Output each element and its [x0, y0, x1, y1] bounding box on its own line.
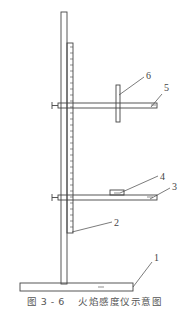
leader-line-5	[151, 94, 162, 107]
part-label-1: 1	[154, 252, 159, 263]
leader-line-1	[133, 262, 152, 287]
part-label-5: 5	[164, 82, 169, 93]
part-label-2: 2	[114, 217, 119, 228]
part-label-6: 6	[146, 70, 151, 81]
caption-title: 火焰感度仪示意图	[78, 296, 162, 307]
flame-sensitivity-apparatus-diagram: 123456	[0, 0, 189, 314]
part-labels: 123456	[114, 70, 177, 263]
figure-caption: 图 3 - 6 火焰感度仪示意图	[0, 294, 189, 308]
caption-number: 图 3 - 6	[27, 296, 65, 307]
part-label-3: 3	[172, 181, 177, 192]
leader-line-2	[72, 222, 112, 232]
leader-line-3	[150, 188, 170, 199]
leader-line-4	[120, 176, 158, 193]
igniter-holder	[116, 85, 120, 122]
base-plate	[20, 283, 133, 291]
scale-ruler	[67, 43, 73, 233]
leader-line-6	[119, 77, 144, 95]
vertical-pole	[61, 12, 67, 284]
part-label-4: 4	[160, 171, 165, 182]
